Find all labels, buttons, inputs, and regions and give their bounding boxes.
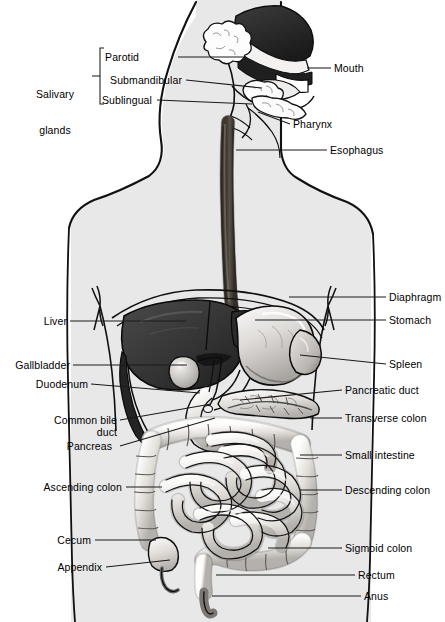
label-liver: Liver xyxy=(10,315,67,327)
label-pancreas: Pancreas xyxy=(40,440,112,452)
label-parotid: Parotid xyxy=(69,51,139,63)
salivary-glands-line2: glands xyxy=(20,124,90,136)
label-spleen: Spleen xyxy=(389,358,422,370)
label-sublingual: Sublingual xyxy=(72,94,152,106)
label-anus: Anus xyxy=(364,590,388,602)
label-submandibular: Submandibular xyxy=(72,74,182,86)
label-gallbladder: Gallbladder xyxy=(0,359,70,371)
label-appendix: Appendix xyxy=(40,561,102,573)
digestive-system-figure: Salivary glands Parotid Submandibular Su… xyxy=(0,0,445,622)
label-cecum: Cecum xyxy=(42,534,91,546)
label-transverse-colon: Transverse colon xyxy=(345,412,427,424)
label-common-bile-duct: Common bile xyxy=(34,414,117,426)
label-descending-colon: Descending colon xyxy=(345,484,430,496)
label-common-bile-duct-line2: duct xyxy=(34,426,117,438)
label-sigmoid-colon: Sigmoid colon xyxy=(345,542,412,554)
label-rectum: Rectum xyxy=(358,569,395,581)
label-duodenum: Duodenum xyxy=(16,378,88,390)
label-small-intestine: Small intestine xyxy=(345,449,415,461)
label-pharynx: Pharynx xyxy=(293,118,332,130)
label-mouth: Mouth xyxy=(334,62,364,74)
label-pancreatic-duct: Pancreatic duct xyxy=(345,384,419,396)
label-ascending-colon: Ascending colon xyxy=(20,481,122,493)
label-esophagus: Esophagus xyxy=(330,144,383,156)
label-diaphragm: Diaphragm xyxy=(389,291,441,303)
label-stomach: Stomach xyxy=(389,314,431,326)
